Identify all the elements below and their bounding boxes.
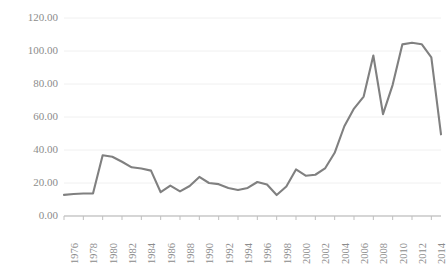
chart-container: 0.0020.0040.0060.0080.00100.00120.00 197…	[0, 0, 447, 268]
x-axis-tick-label: 1984	[146, 243, 157, 264]
line-chart-plot	[0, 0, 447, 268]
x-axis-tick-label: 2008	[378, 243, 389, 264]
x-axis-tick-label: 2000	[301, 243, 312, 264]
y-axis-tick-label: 20.00	[33, 176, 58, 188]
x-axis-tick-label: 1986	[166, 243, 177, 264]
x-axis-tick-label: 1980	[108, 243, 119, 264]
x-tick-marks-group	[64, 216, 431, 220]
x-axis-tick-label: 1994	[243, 243, 254, 264]
y-axis-tick-label: 100.00	[28, 44, 58, 56]
x-axis-tick-label: 1982	[127, 243, 138, 264]
gridlines-group	[64, 18, 441, 216]
y-axis-tick-label: 0.00	[39, 209, 58, 221]
x-axis-tick-label: 1998	[282, 243, 293, 264]
x-axis-tick-label: 1996	[262, 243, 273, 264]
x-axis-tick-label: 2014	[436, 243, 447, 264]
series-polyline	[64, 43, 441, 195]
y-axis-tick-label: 60.00	[33, 110, 58, 122]
x-axis-tick-label: 1992	[224, 243, 235, 264]
data-series-line	[64, 43, 441, 195]
x-axis-tick-label: 2004	[340, 243, 351, 264]
x-axis-tick-label: 2002	[320, 243, 331, 264]
y-axis-tick-label: 80.00	[33, 77, 58, 89]
x-axis-tick-label: 1976	[69, 243, 80, 264]
x-axis-tick-label: 1988	[185, 243, 196, 264]
x-axis-tick-label: 2012	[417, 243, 428, 264]
y-axis-tick-label: 120.00	[28, 11, 58, 23]
x-axis-tick-label: 1978	[88, 243, 99, 264]
x-axis-tick-label: 2006	[359, 243, 370, 264]
x-axis-tick-label: 1990	[204, 243, 215, 264]
y-axis-tick-label: 40.00	[33, 143, 58, 155]
x-axis-tick-label: 2010	[398, 243, 409, 264]
